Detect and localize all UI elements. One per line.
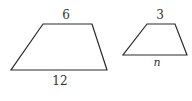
small-trapezoid (123, 24, 187, 55)
large-bottom-label: 12 (52, 74, 67, 88)
large-trapezoid (11, 24, 107, 70)
trapezoid-figure: 6 12 3 n (0, 0, 192, 101)
small-bottom-label: n (153, 56, 160, 69)
large-top-label: 6 (62, 8, 70, 22)
small-top-label: 3 (156, 8, 164, 22)
